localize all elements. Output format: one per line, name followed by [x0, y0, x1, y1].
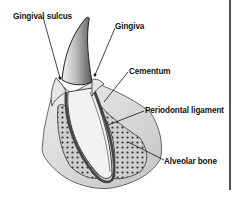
leader-gingival-sulcus — [43, 17, 60, 78]
label-cementum: Cementum — [129, 68, 171, 76]
label-gingiva: Gingiva — [115, 23, 144, 31]
label-alveolar-bone: Alveolar bone — [164, 158, 217, 166]
label-periodontal-ligament: Periodontal ligament — [145, 107, 224, 115]
tooth-crown — [62, 17, 92, 85]
tooth-anatomy-diagram: Gingival sulcus Gingiva Cementum Periodo… — [0, 0, 234, 198]
label-gingival-sulcus: Gingival sulcus — [13, 13, 72, 21]
figure-border — [229, 0, 231, 190]
leader-gingiva — [95, 28, 115, 75]
